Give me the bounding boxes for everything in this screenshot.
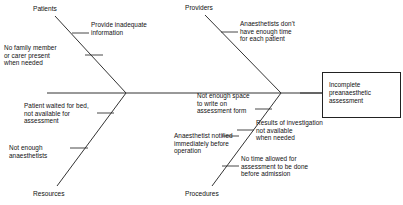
effect-text: Incomplete preanaesthetic assessment [329, 81, 397, 106]
cause-label-anaesthetists-not-enough-time: Anaesthetists don't have enough time for… [240, 20, 352, 43]
category-label-procedures: Procedures [185, 190, 219, 198]
cause-label-no-time-allowed-for-assessment: No time allowed for assessment to be don… [241, 155, 347, 178]
cause-label-provide-inadequate-information: Provide inadequate information [91, 21, 196, 36]
cause-label-patient-waited-for-bed: Patient waited for bed, not available fo… [24, 102, 102, 125]
effect-box: Incomplete preanaesthetic assessment [322, 72, 401, 118]
cause-label-no-family-member-or-carer: No family member or carer present when n… [4, 44, 86, 67]
cause-label-not-enough-space-to-write: Not enough space to write on assessment … [197, 92, 267, 115]
category-label-patients: Patients [33, 5, 57, 13]
fishbone-diagram: Incomplete preanaesthetic assessment Pat… [0, 0, 403, 205]
cause-label-results-of-investigation: Results of investigation not available w… [256, 119, 360, 142]
category-label-resources: Resources [33, 190, 65, 198]
category-label-providers: Providers [185, 4, 213, 12]
cause-label-anaesthetist-notified-immediately: Anaesthetist notified immediately before… [174, 132, 246, 155]
cause-label-not-enough-anaesthetists: Not enough anaesthetists [9, 144, 71, 159]
